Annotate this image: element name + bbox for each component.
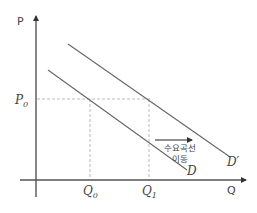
curve-d-prime-label: D′ xyxy=(226,155,240,169)
q0-label: Q0 xyxy=(83,184,98,200)
q1-label: Q1 xyxy=(142,184,157,200)
x-axis-label: Q xyxy=(227,184,236,197)
shift-annotation-line2: 이동 xyxy=(172,154,188,164)
demand-shift-diagram: P Q P0 Q0 Q1 D D′ 수요곡선 이동 xyxy=(0,0,257,213)
demand-curve-d xyxy=(48,70,187,170)
y-axis-label: P xyxy=(17,15,24,28)
shift-annotation-line1: 수요곡선 xyxy=(164,143,196,153)
curve-d-label: D xyxy=(186,164,197,178)
p0-label: P0 xyxy=(14,93,28,109)
